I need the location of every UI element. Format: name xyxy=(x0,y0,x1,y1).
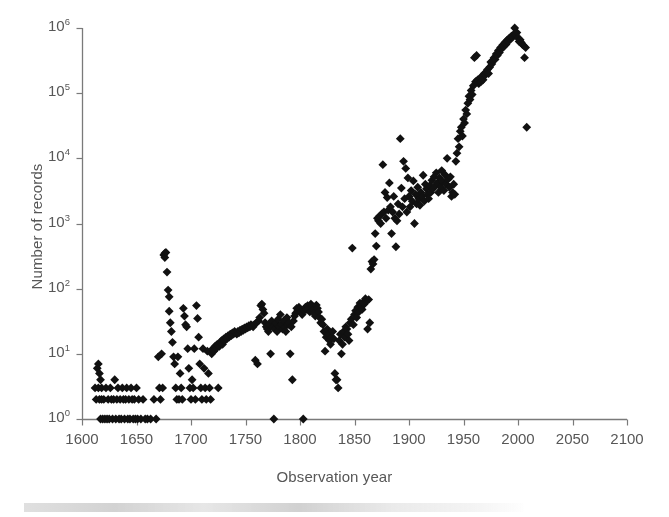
x-axis-title: Observation year xyxy=(0,468,669,485)
x-tick-label: 1850 xyxy=(325,430,385,447)
x-tick-label: 1950 xyxy=(434,430,494,447)
x-tick-label: 1900 xyxy=(379,430,439,447)
scan-artifact-strip xyxy=(24,503,524,512)
y-tick-label: 104 xyxy=(24,147,70,164)
scatter-plot-figure: Number of records Observation year 16001… xyxy=(0,0,669,517)
x-tick-label: 1750 xyxy=(216,430,276,447)
y-tick-label: 106 xyxy=(24,17,70,34)
x-tick-label: 1800 xyxy=(270,430,330,447)
x-tick-label: 2100 xyxy=(597,430,657,447)
y-tick-label: 101 xyxy=(24,343,70,360)
x-tick-label: 1650 xyxy=(107,430,167,447)
y-tick-label: 103 xyxy=(24,213,70,230)
y-tick-label: 105 xyxy=(24,82,70,99)
x-tick-label: 1700 xyxy=(161,430,221,447)
x-tick-label: 2050 xyxy=(543,430,603,447)
x-tick-label: 2000 xyxy=(488,430,548,447)
x-tick-label: 1600 xyxy=(52,430,112,447)
y-tick-label: 102 xyxy=(24,278,70,295)
y-tick-label: 100 xyxy=(24,408,70,425)
